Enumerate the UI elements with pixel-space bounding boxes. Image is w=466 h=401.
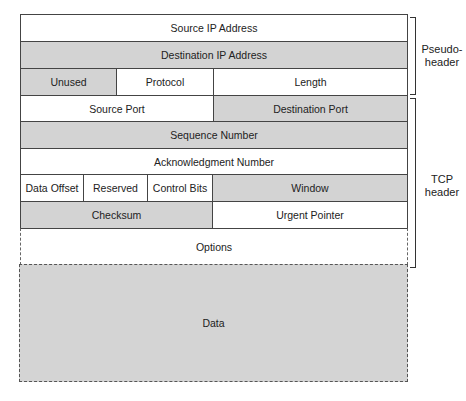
tcp-header-label: TCP header [420, 173, 464, 199]
field-protocol: Protocol [116, 68, 214, 96]
field-label: Unused [50, 76, 86, 88]
field-label: Checksum [92, 209, 142, 221]
field-label: Reserved [93, 182, 138, 194]
pseudo-header-label-line1: Pseudo- [418, 43, 466, 56]
field-sequence-number: Sequence Number [20, 121, 408, 149]
field-label: Data Offset [26, 182, 79, 194]
field-label: Data [202, 317, 224, 329]
field-label: Source Port [89, 103, 144, 115]
tcp-header-label-line2: header [420, 186, 464, 199]
field-label: Urgent Pointer [276, 209, 344, 221]
field-control-bits: Control Bits [147, 174, 213, 202]
field-label: Destination IP Address [161, 49, 267, 61]
field-label: Length [294, 76, 326, 88]
tcp-header-bracket [410, 98, 416, 268]
field-ack-number: Acknowledgment Number [20, 148, 408, 175]
field-destination-port: Destination Port [213, 95, 408, 122]
field-reserved: Reserved [83, 174, 148, 202]
field-source-ip: Source IP Address [20, 14, 408, 42]
field-window: Window [212, 174, 408, 202]
field-label: Protocol [146, 76, 185, 88]
field-options: Options [20, 228, 408, 265]
field-label: Destination Port [273, 103, 348, 115]
field-data-offset: Data Offset [20, 174, 84, 202]
pseudo-header-bracket [410, 17, 416, 95]
field-label: Acknowledgment Number [154, 156, 274, 168]
field-label: Control Bits [153, 182, 207, 194]
field-destination-ip: Destination IP Address [20, 41, 408, 69]
field-label: Sequence Number [170, 129, 258, 141]
pseudo-header-label: Pseudo- header [418, 43, 466, 69]
field-unused: Unused [20, 68, 117, 96]
tcp-header-label-line1: TCP [420, 173, 464, 186]
field-checksum: Checksum [20, 201, 213, 229]
field-source-port: Source Port [20, 95, 214, 122]
field-label: Window [291, 182, 328, 194]
field-data: Data [19, 264, 408, 382]
field-urgent-pointer: Urgent Pointer [212, 201, 408, 229]
pseudo-header-label-line2: header [418, 56, 466, 69]
field-label: Source IP Address [171, 22, 258, 34]
field-length: Length [213, 68, 408, 96]
field-label: Options [196, 241, 232, 253]
